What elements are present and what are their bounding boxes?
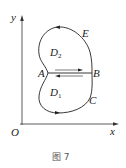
point-b-label: B — [93, 67, 100, 79]
curve-direction-arrow-bottom-icon — [55, 111, 60, 115]
figure-caption: 图 7 — [52, 152, 70, 162]
origin-label: O — [11, 126, 19, 138]
arrow-right-icon — [78, 69, 83, 72]
point-a-label: A — [37, 67, 45, 79]
region-d2-label: D2 — [49, 46, 62, 60]
region-d1-label: D1 — [49, 86, 62, 100]
curve-direction-arrow-top-icon — [55, 25, 60, 29]
x-axis-label: x — [109, 125, 115, 137]
coordinate-axes — [20, 19, 116, 125]
point-e-label: E — [81, 27, 89, 39]
point-c-label: C — [89, 94, 97, 106]
figure-7-diagram: y x O A B E C D2 D1 图 7 — [0, 0, 126, 168]
y-axis-arrow-icon — [20, 15, 24, 21]
y-axis-label: y — [10, 11, 16, 23]
arrow-left-icon — [55, 75, 60, 78]
